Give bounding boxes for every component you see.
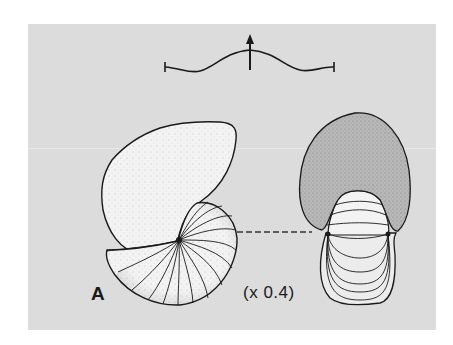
umbilicus: [176, 237, 182, 243]
up-arrow-icon: [246, 34, 254, 44]
panel-label: A: [91, 283, 105, 305]
shell-front-view: [300, 113, 411, 305]
shell-side-view: [102, 122, 237, 305]
scale-label: (x 0.4): [243, 283, 295, 303]
nautilus-illustration: [0, 0, 453, 345]
suture-line-diagram: [165, 34, 334, 72]
